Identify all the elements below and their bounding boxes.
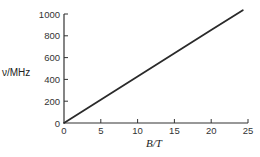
x-tick-label: 10: [132, 125, 143, 136]
x-tick-label: 0: [61, 125, 66, 136]
y-tick-label: 1000: [39, 9, 60, 20]
y-tick-label: 0: [55, 118, 60, 129]
x-tick-label: 5: [98, 125, 103, 136]
plot-area: [64, 10, 243, 123]
y-tick-label: 200: [44, 96, 60, 107]
y-tick-label: 600: [44, 52, 60, 63]
data-line: [64, 10, 243, 123]
x-axis: 0510152025: [61, 119, 253, 136]
y-axis: 02004006008001000: [39, 9, 68, 129]
y-axis-label: ν/MHz: [2, 67, 30, 78]
chart: 02004006008001000 0510152025 ν/MHz B/T: [0, 0, 260, 157]
x-tick-label: 15: [169, 125, 180, 136]
y-tick-label: 800: [44, 30, 60, 41]
y-tick-label: 400: [44, 74, 60, 85]
x-tick-label: 20: [206, 125, 217, 136]
x-tick-label: 25: [243, 125, 254, 136]
x-axis-label: B/T: [146, 137, 163, 149]
